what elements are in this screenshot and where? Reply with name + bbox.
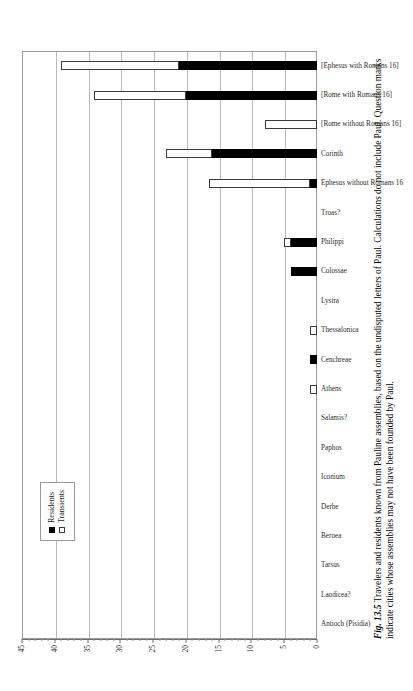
bar-column[interactable] <box>22 414 317 423</box>
axis-minor-tick <box>113 639 114 641</box>
bar-segment-residents[interactable] <box>186 91 317 100</box>
legend-label-residents: Residents <box>48 492 56 523</box>
axis-minor-tick <box>199 639 200 641</box>
axis-minor-tick <box>35 639 36 641</box>
axis-minor-tick <box>290 639 291 641</box>
axis-minor-tick <box>81 639 82 641</box>
category-label: Paphos <box>321 445 342 452</box>
axis-minor-tick <box>41 639 42 641</box>
bar-column[interactable] <box>22 473 317 482</box>
bar-segment-residents[interactable] <box>291 267 317 276</box>
category-label: Corinth <box>321 151 343 158</box>
category-label: Laodicea? <box>321 592 351 599</box>
filled-square-icon <box>49 527 55 533</box>
axis-minor-tick <box>271 639 272 641</box>
figure-caption: Fig. 13.5 Travelers and residents known … <box>372 39 397 639</box>
bar-column[interactable] <box>22 590 317 599</box>
axis-minor-tick <box>133 639 134 641</box>
bar-column[interactable] <box>22 208 317 217</box>
bar-segment-transients[interactable] <box>166 149 212 158</box>
axis-minor-tick <box>61 639 62 641</box>
category-label: Tarsus <box>321 563 340 570</box>
axis-tick-label: 25 <box>149 645 157 653</box>
bar-series-group <box>22 51 317 639</box>
open-square-icon <box>59 527 65 533</box>
bar-segment-transients[interactable] <box>310 385 317 394</box>
bar-column[interactable] <box>22 267 317 276</box>
axis-minor-tick <box>192 639 193 641</box>
bar-column[interactable] <box>22 296 317 305</box>
bar-column[interactable] <box>22 443 317 452</box>
axis-minor-tick <box>238 639 239 641</box>
axis-tick-label: 0 <box>313 645 321 649</box>
figure-number: Fig. 13.5 <box>373 605 383 639</box>
legend-item-transients: Transients <box>58 490 66 533</box>
axis-minor-tick <box>48 639 49 641</box>
axis-minor-tick <box>225 639 226 641</box>
category-label: Philippi <box>321 239 344 246</box>
axis-tick-label: 30 <box>117 645 125 653</box>
category-label: Troas? <box>321 210 340 217</box>
axis-minor-tick <box>159 639 160 641</box>
bar-column[interactable] <box>22 120 317 129</box>
figure-page: 051015202530354045 Antioch (Pisidia)Laod… <box>0 0 413 691</box>
axis-tick-mark <box>153 639 154 643</box>
bar-segment-transients[interactable] <box>209 179 311 188</box>
axis-tick-label: 15 <box>215 645 223 653</box>
axis-minor-tick <box>28 639 29 641</box>
axis-minor-tick <box>172 639 173 641</box>
axis-minor-tick <box>212 639 213 641</box>
axis-minor-tick <box>100 639 101 641</box>
bar-column[interactable] <box>22 238 317 247</box>
bar-column[interactable] <box>22 149 317 158</box>
bar-segment-residents[interactable] <box>212 149 317 158</box>
axis-minor-tick <box>126 639 127 641</box>
bar-column[interactable] <box>22 326 317 335</box>
bar-segment-residents[interactable] <box>310 179 317 188</box>
bar-column[interactable] <box>22 620 317 629</box>
bar-segment-residents[interactable] <box>179 61 317 70</box>
bar-segment-residents[interactable] <box>310 355 317 364</box>
category-axis-labels: Antioch (Pisidia)Laodicea?TarsusBeroeaDe… <box>319 51 411 639</box>
axis-tick-mark <box>87 639 88 643</box>
axis-minor-tick <box>297 639 298 641</box>
axis-minor-tick <box>179 639 180 641</box>
bar-segment-transients[interactable] <box>310 326 317 335</box>
axis-minor-tick <box>258 639 259 641</box>
axis-minor-tick <box>205 639 206 641</box>
value-axis: 051015202530354045 <box>22 639 317 661</box>
axis-tick-label: 10 <box>248 645 256 653</box>
axis-minor-tick <box>140 639 141 641</box>
axis-tick-mark <box>185 639 186 643</box>
rotated-figure-container: 051015202530354045 Antioch (Pisidia)Laod… <box>0 0 413 691</box>
category-label: Beroea <box>321 533 341 540</box>
bar-segment-transients[interactable] <box>94 91 186 100</box>
axis-tick-label: 5 <box>280 645 288 649</box>
category-label: Thessalonica <box>321 327 359 334</box>
chart-legend: Residents Transients <box>40 482 75 541</box>
bar-column[interactable] <box>22 355 317 364</box>
axis-tick-mark <box>54 639 55 643</box>
category-label: Iconium <box>321 474 345 481</box>
axis-tick-mark <box>120 639 121 643</box>
axis-tick-label: 20 <box>182 645 190 653</box>
category-label: Athens <box>321 386 341 393</box>
bar-column[interactable] <box>22 179 317 188</box>
category-label: Salamis? <box>321 416 347 423</box>
bar-column[interactable] <box>22 61 317 70</box>
bar-segment-transients[interactable] <box>265 120 317 129</box>
axis-minor-tick <box>146 639 147 641</box>
bar-segment-transients[interactable] <box>61 61 179 70</box>
axis-minor-tick <box>310 639 311 641</box>
axis-minor-tick <box>166 639 167 641</box>
axis-tick-mark <box>284 639 285 643</box>
axis-minor-tick <box>303 639 304 641</box>
axis-minor-tick <box>264 639 265 641</box>
bar-column[interactable] <box>22 385 317 394</box>
bar-segment-transients[interactable] <box>284 238 291 247</box>
axis-minor-tick <box>231 639 232 641</box>
axis-minor-tick <box>74 639 75 641</box>
bar-column[interactable] <box>22 91 317 100</box>
bar-column[interactable] <box>22 561 317 570</box>
bar-segment-residents[interactable] <box>291 238 317 247</box>
